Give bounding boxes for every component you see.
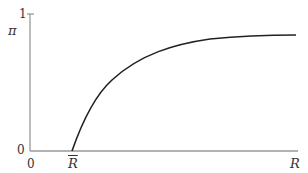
chart-canvas [0, 0, 308, 173]
y-tick-label-zero: 0 [17, 144, 25, 156]
x-tick-label-rbar: R [68, 157, 78, 170]
y-tick-label-top: 1 [19, 8, 27, 20]
curve-pi-of-R [72, 35, 296, 151]
y-axis-label: π [8, 24, 17, 37]
x-axis-label: R [290, 157, 300, 170]
x-tick-label-zero: 0 [27, 158, 35, 170]
